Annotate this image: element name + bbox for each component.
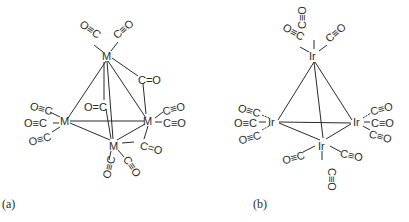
carbonyl-cluster-figure: M M M M O≡C C≡O O≡C O≡C O≡C C≡O C≡O O≡C … [0, 0, 409, 222]
co-ligand: O≡C [281, 149, 306, 167]
panel-b: Ir Ir Ir Ir O≡C C≡O C≡O O≡C O≡C O≡C C≡O … [234, 6, 394, 211]
co-ligand: C≡O [323, 20, 349, 44]
terminal-bond [118, 150, 124, 157]
co-ligand: O≡C [24, 117, 47, 129]
terminal-bond [52, 127, 60, 132]
co-ligand: C≡O [339, 147, 364, 164]
iridium-atom-bottom: Ir [318, 140, 325, 152]
terminal-bond [363, 126, 370, 130]
panel-caption-b: (b) [253, 197, 267, 211]
bridging-co-ligand: C=O [139, 139, 165, 157]
bridge-bond [144, 126, 148, 139]
co-ligand: C≡O [371, 117, 394, 129]
bond-ir1-ir2 [278, 62, 314, 120]
co-ligand: O≡C [100, 155, 118, 180]
co-ligand: O≡C [78, 18, 104, 41]
iridium-atom-top: Ir [309, 50, 316, 62]
co-ligand: C≡O [368, 128, 394, 146]
terminal-bond [111, 42, 118, 51]
bond-ir2-ir3 [279, 122, 351, 123]
metal-atom-left: M [60, 115, 69, 127]
metal-atom-bottom: M [109, 140, 118, 152]
co-ligand: C≡O [163, 117, 186, 129]
bridging-co-bonds-a [104, 58, 148, 143]
terminal-bond [300, 47, 309, 52]
terminal-bond [330, 146, 341, 152]
bond-ir3-ir4 [326, 124, 351, 139]
terminal-bond [363, 113, 371, 118]
co-ligand: O≡C [237, 129, 262, 147]
bridge-bond [143, 84, 146, 114]
iridium-atom-right: Ir [353, 116, 360, 128]
co-ligand: O≡C [29, 100, 54, 118]
panel-a: M M M M O≡C C≡O O≡C O≡C O≡C C≡O C≡O O≡C … [2, 17, 187, 211]
co-ligand: C≡O [161, 100, 187, 118]
bond-ir1-ir4 [314, 62, 323, 138]
bridge-bond [122, 142, 134, 143]
terminal-bond [319, 45, 327, 51]
bond-m3-m4 [117, 124, 145, 140]
co-ligand: C≡O [369, 100, 395, 118]
bridging-co-ligand: O=C [84, 101, 107, 113]
bond-m1-m3 [108, 61, 146, 118]
co-ligand: O≡C [234, 117, 257, 129]
co-ligand: C≡O [110, 17, 136, 41]
metal-metal-bonds-b [278, 62, 352, 140]
bridging-co-ligand: C=O [138, 74, 161, 86]
bond-m1-m4 [107, 61, 113, 139]
terminal-bond [155, 112, 163, 118]
iridium-atom-left: Ir [268, 116, 275, 128]
co-ligand: C≡O [326, 168, 338, 191]
co-ligand: C≡O [296, 6, 308, 29]
bond-ir2-ir4 [279, 123, 320, 140]
terminal-bond [303, 146, 315, 152]
co-ligand: C≡O [121, 154, 144, 180]
bond-m2-m4 [70, 123, 110, 140]
bridge-bond [106, 109, 111, 139]
metal-atom-top: M [102, 50, 111, 62]
co-ligand: O≡C [27, 130, 52, 148]
metal-atom-right: M [143, 115, 152, 127]
bond-ir1-ir3 [315, 62, 352, 120]
panel-caption-a: (a) [2, 197, 15, 211]
